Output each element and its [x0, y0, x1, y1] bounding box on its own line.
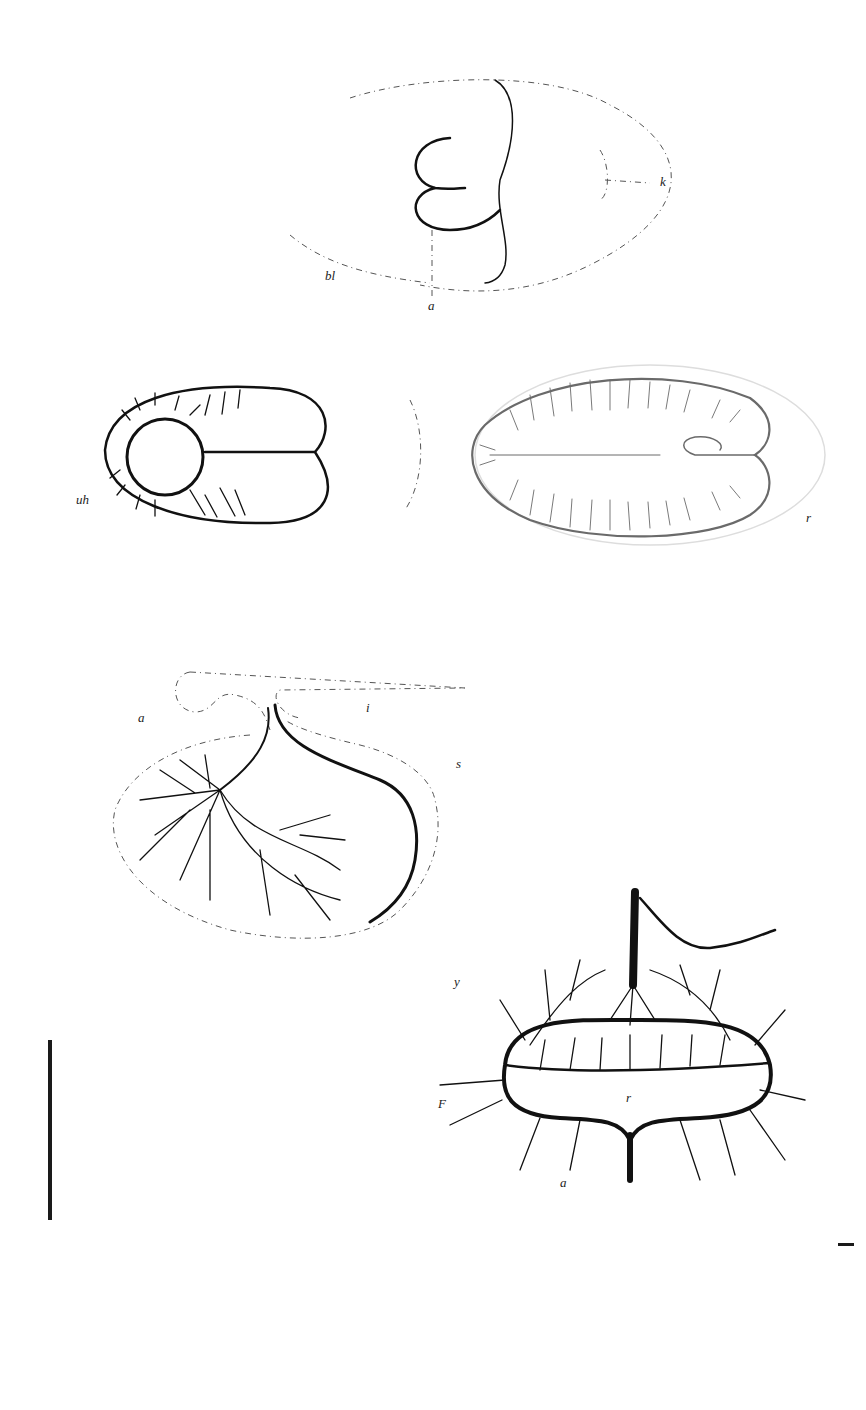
figure-2: uh — [60, 360, 440, 550]
figure-1-label-bl: bl — [325, 268, 335, 284]
figure-2-label-uh: uh — [76, 492, 89, 508]
figure-4-label-s: s — [456, 756, 461, 772]
figure-1-drawing — [270, 70, 710, 320]
figure-4-label-a: a — [138, 710, 145, 726]
figure-3-drawing — [450, 350, 830, 550]
figure-2-drawing — [60, 360, 440, 550]
figure-5-label-F: F — [438, 1096, 446, 1112]
figure-3: r — [450, 350, 830, 550]
figure-3-label-r: r — [806, 510, 811, 526]
figure-1-label-k: k — [660, 174, 666, 190]
figure-4: a i s — [100, 660, 480, 950]
figure-5-drawing — [430, 870, 830, 1200]
figure-1: bl a k — [270, 70, 710, 320]
figure-4-drawing — [100, 660, 480, 950]
figure-5-label-a: a — [560, 1175, 567, 1191]
figure-5: y F a r — [430, 870, 830, 1200]
margin-dash — [838, 1243, 854, 1246]
figure-4-label-i: i — [366, 700, 370, 716]
figure-5-label-r: r — [626, 1090, 631, 1106]
figure-5-label-y: y — [454, 974, 460, 990]
figure-1-label-a: a — [428, 298, 435, 314]
margin-line — [48, 1040, 52, 1220]
